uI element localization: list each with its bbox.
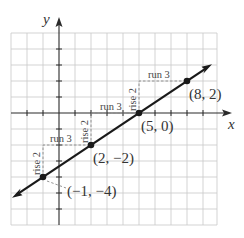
y-axis-label: y <box>41 11 50 27</box>
point-label-8-2: (8, 2) <box>189 86 222 103</box>
label-leader-line <box>47 181 66 188</box>
x-axis-label: x <box>227 116 235 132</box>
point-label-5-0: (5, 0) <box>141 118 174 135</box>
rise-label-3: rise 2 <box>127 88 138 111</box>
run-label-1: run 3 <box>50 133 72 144</box>
point-label-neg1-neg4: (−1, −4) <box>67 183 116 200</box>
run-label-2: run 3 <box>100 101 122 112</box>
point-8-2 <box>184 78 191 85</box>
coordinate-plane: y x (−1, −4) (2, −2) (5, 0) (8, 2) run 3… <box>0 0 244 238</box>
y-axis <box>56 17 63 225</box>
rise-label-2: rise 2 <box>79 120 90 143</box>
run-label-3: run 3 <box>148 69 170 80</box>
rise-label-1: rise 2 <box>31 152 42 175</box>
point-label-2-neg2: (2, −2) <box>93 150 134 167</box>
